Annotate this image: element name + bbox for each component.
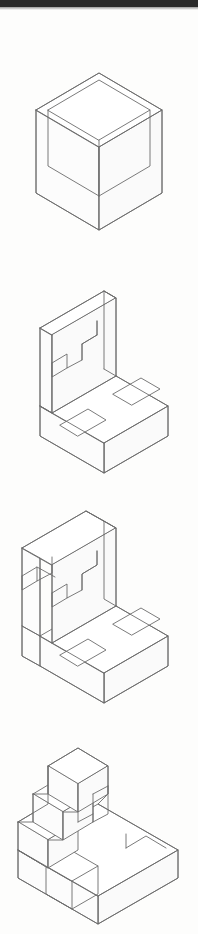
top-rule [0, 0, 198, 7]
top-rule-shadow [0, 7, 198, 10]
figure-4-staircase-block [0, 728, 198, 928]
fig3-wall-left-face [22, 548, 40, 636]
figure-4-svg [0, 728, 198, 928]
figure-2-svg [0, 268, 198, 483]
figure-3-double-stepped-l-block [0, 498, 198, 713]
fig2-wall-left-face [40, 328, 52, 413]
figure-2-stepped-l-block [0, 268, 198, 483]
drawing-page: Isometric Pictorial Drawings [0, 0, 198, 934]
figure-3-svg [0, 498, 198, 713]
figure-1-svg [0, 48, 198, 253]
figure-1-open-box [0, 48, 198, 253]
